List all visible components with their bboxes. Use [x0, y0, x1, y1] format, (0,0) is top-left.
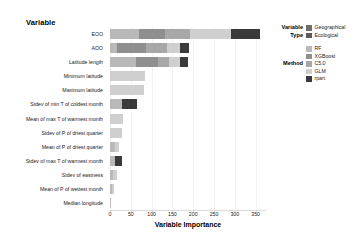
x-tick-mark: [152, 210, 153, 212]
bar-segment-glm[interactable]: [112, 184, 114, 194]
legend-item-vt-geographical[interactable]: Geographical: [306, 24, 364, 32]
legend-item-method-glm[interactable]: GLM: [306, 68, 364, 76]
bar-segment-rf[interactable]: [110, 57, 136, 67]
bar-segment-glm[interactable]: [169, 57, 180, 67]
x-tick-mark: [235, 210, 236, 212]
x-tick-mark: [172, 210, 173, 212]
bar-row[interactable]: [110, 128, 266, 138]
bar-segment-xgboost[interactable]: [136, 57, 158, 67]
chart-root: Variable EOOAOOLatitude lengthMinimum la…: [0, 0, 364, 249]
bar-row[interactable]: [110, 198, 266, 208]
legend-label: RF: [315, 45, 322, 53]
bar-row[interactable]: [110, 99, 266, 109]
stacked-bar[interactable]: [110, 29, 260, 39]
bar-row[interactable]: [110, 43, 266, 53]
bar-segment-rf[interactable]: [110, 99, 122, 109]
stacked-bar[interactable]: [110, 57, 188, 67]
y-tick-label: Stdev of min T of coldest month: [30, 99, 103, 109]
stacked-bar[interactable]: [110, 85, 144, 95]
x-axis-title: Variable Importance: [110, 221, 266, 228]
bar-row[interactable]: [110, 170, 266, 180]
legend-swatch: [306, 69, 312, 75]
stacked-bar[interactable]: [110, 99, 137, 109]
legend-variable-type: Variable Type GeographicalEcological: [277, 24, 364, 39]
legend-swatch: [306, 46, 312, 52]
stacked-bar[interactable]: [110, 43, 189, 53]
legend-label: C5.0: [315, 60, 326, 68]
y-axis-tick-labels: EOOAOOLatitude lengthMinimum latitudeMax…: [0, 27, 107, 210]
plot-area: [110, 27, 266, 210]
bar-segment-c5-0[interactable]: [146, 43, 168, 53]
bar-row[interactable]: [110, 85, 266, 95]
legend-swatch: [306, 61, 312, 67]
bar-segment-rpart[interactable]: [180, 43, 189, 53]
y-tick-label: Mean of P of wettest month: [40, 184, 103, 194]
bar-segment-glm[interactable]: [167, 43, 179, 53]
bar-segment-rpart[interactable]: [115, 156, 122, 166]
legend-item-vt-ecological[interactable]: Ecological: [306, 32, 364, 40]
x-tick-mark: [193, 210, 194, 212]
bar-segment-rpart[interactable]: [231, 29, 260, 39]
bar-row[interactable]: [110, 184, 266, 194]
stacked-bar[interactable]: [110, 198, 111, 208]
y-tick-label: AOO: [91, 43, 103, 53]
bar-segment-rpart[interactable]: [180, 57, 188, 67]
stacked-bar[interactable]: [110, 71, 145, 81]
stacked-bar[interactable]: [110, 170, 117, 180]
bar-segment-c5-0[interactable]: [158, 57, 169, 67]
x-tick-mark: [214, 210, 215, 212]
x-tick-mark: [110, 210, 111, 212]
legend-label: Ecological: [315, 32, 339, 40]
bar-row[interactable]: [110, 29, 266, 39]
bar-segment-glm[interactable]: [110, 114, 123, 124]
legend-title-line2: Type: [277, 32, 303, 40]
bar-segment-rf[interactable]: [110, 43, 117, 53]
bar-segment-rf[interactable]: [110, 29, 139, 39]
legend-swatch: [306, 76, 312, 82]
bar-segment-glm[interactable]: [190, 29, 231, 39]
legend-item-method-xgboost[interactable]: XGBoost: [306, 53, 364, 61]
y-tick-label: Mean of max T of warmest month: [26, 114, 103, 124]
bar-segment-glm[interactable]: [110, 85, 144, 95]
legend-label: rpart: [315, 75, 326, 83]
legend-label: GLM: [315, 68, 326, 76]
legend-label: XGBoost: [315, 53, 336, 61]
bar-segment-rf[interactable]: [110, 198, 111, 208]
legend-item-method-rf[interactable]: RF: [306, 45, 364, 53]
x-tick-mark: [256, 210, 257, 212]
y-tick-label: Latitude length: [69, 57, 103, 67]
legend-method: Method RFXGBoostC5.0GLMrpart: [277, 45, 364, 83]
stacked-bar[interactable]: [110, 128, 122, 138]
bar-segment-glm[interactable]: [115, 142, 119, 152]
bar-row[interactable]: [110, 57, 266, 67]
bar-segment-glm[interactable]: [113, 170, 117, 180]
bar-segment-xgboost[interactable]: [117, 43, 145, 53]
stacked-bar[interactable]: [110, 184, 114, 194]
legend-title-line1: Variable: [277, 24, 303, 32]
bar-row[interactable]: [110, 114, 266, 124]
bar-segment-glm[interactable]: [110, 128, 122, 138]
bar-segment-rpart[interactable]: [122, 99, 136, 109]
legend-swatch: [306, 54, 312, 60]
bar-segment-c5-0[interactable]: [165, 29, 190, 39]
y-tick-label: Minimum latitude: [64, 71, 103, 81]
stacked-bar[interactable]: [110, 114, 123, 124]
y-tick-label: EOO: [91, 29, 103, 39]
bar-row[interactable]: [110, 142, 266, 152]
legend-method-items: RFXGBoostC5.0GLMrpart: [306, 45, 364, 83]
legend-item-method-rpart[interactable]: rpart: [306, 75, 364, 83]
legend: Variable Type GeographicalEcological Met…: [277, 24, 364, 89]
legend-swatch: [306, 33, 312, 39]
bar-row[interactable]: [110, 71, 266, 81]
stacked-bar[interactable]: [110, 142, 119, 152]
y-tick-label: Mean of P of driest quarter: [42, 142, 103, 152]
bar-row[interactable]: [110, 156, 266, 166]
bar-segment-glm[interactable]: [110, 71, 145, 81]
y-tick-label: Stdev of P of driest quarter: [41, 128, 103, 138]
stacked-bar[interactable]: [110, 156, 122, 166]
legend-variable-type-items: GeographicalEcological: [306, 24, 364, 39]
bar-segment-xgboost[interactable]: [139, 29, 165, 39]
x-tick-mark: [131, 210, 132, 212]
y-axis-title: Variable: [26, 18, 56, 27]
legend-item-method-c5-0[interactable]: C5.0: [306, 60, 364, 68]
